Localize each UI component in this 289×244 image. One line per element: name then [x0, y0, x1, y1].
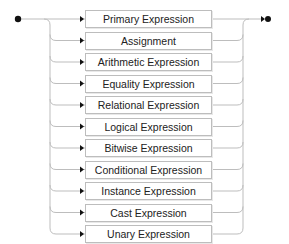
- branch-line: [212, 207, 243, 213]
- nonterminal-box: Conditional Expression: [85, 161, 212, 179]
- nonterminal-box: Equality Expression: [85, 75, 212, 93]
- branch-line: [212, 142, 243, 148]
- nonterminal-box: Unary Expression: [85, 225, 212, 243]
- branch-line: [50, 142, 85, 148]
- branch-line: [50, 78, 85, 84]
- nonterminal-box: Bitwise Expression: [85, 139, 212, 157]
- arrow-icon: [80, 16, 84, 22]
- left-rail: [44, 19, 50, 228]
- nonterminal-box: Cast Expression: [85, 204, 212, 222]
- nonterminal-box: Instance Expression: [85, 182, 212, 200]
- arrow-icon: [80, 188, 84, 194]
- right-rail: [243, 19, 249, 228]
- nonterminal-box: Relational Expression: [85, 96, 212, 114]
- arrow-icon: [80, 231, 84, 237]
- nonterminal-box: Assignment: [85, 32, 212, 50]
- branch-line: [50, 185, 85, 191]
- branch-line: [212, 228, 243, 234]
- arrow-icon: [80, 59, 84, 65]
- arrow-icon: [80, 210, 84, 216]
- start-dot-icon: [15, 16, 21, 22]
- branch-line: [212, 185, 243, 191]
- nonterminal-box: Logical Expression: [85, 118, 212, 136]
- branch-line: [50, 35, 85, 41]
- branch-line: [50, 121, 85, 127]
- branch-line: [212, 78, 243, 84]
- branch-line: [212, 121, 243, 127]
- branch-line: [212, 99, 243, 105]
- arrow-icon: [80, 124, 84, 130]
- branch-line: [50, 164, 85, 170]
- branch-line: [212, 35, 243, 41]
- branch-line: [50, 99, 85, 105]
- nonterminal-box: Primary Expression: [85, 10, 212, 28]
- branch-line: [212, 56, 243, 62]
- nonterminal-box: Arithmetic Expression: [85, 53, 212, 71]
- end-arrow-icon: [261, 16, 265, 22]
- arrow-icon: [80, 167, 84, 173]
- arrow-icon: [80, 102, 84, 108]
- arrow-icon: [80, 81, 84, 87]
- end-dot-icon: [265, 16, 271, 22]
- branch-line: [50, 56, 85, 62]
- branch-line: [212, 164, 243, 170]
- branch-line: [50, 228, 85, 234]
- arrow-icon: [80, 145, 84, 151]
- branch-line: [50, 207, 85, 213]
- arrow-icon: [80, 38, 84, 44]
